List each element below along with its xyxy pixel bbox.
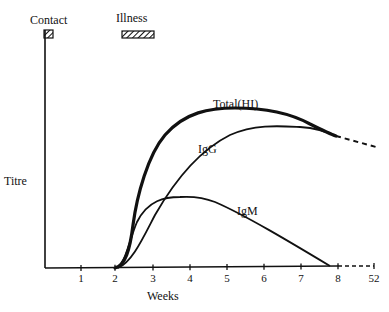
x-tick-label: 1 (78, 273, 84, 284)
x-tick-label: 3 (150, 273, 156, 284)
series-total-hi (115, 108, 336, 268)
igm-label: IgM (237, 205, 258, 217)
x-tick-label: 7 (298, 273, 304, 284)
x-tick-label: 6 (261, 273, 267, 284)
x-axis (45, 266, 338, 268)
series-igg (118, 126, 336, 268)
series-total-hi-extrapolated (336, 136, 376, 147)
x-tick-label: 52 (369, 273, 380, 284)
illness-label: Illness (116, 12, 147, 24)
x-tick-label: 8 (335, 273, 341, 284)
x-tick-label: 5 (224, 273, 230, 284)
series-igm (117, 197, 330, 268)
total-hi-label: Total(HI) (213, 98, 258, 110)
contact-label: Contact (30, 14, 67, 26)
y-axis-label: Titre (4, 175, 27, 187)
x-axis-label: Weeks (147, 290, 179, 302)
illness-marker (122, 31, 154, 38)
x-tick-label: 4 (187, 273, 193, 284)
x-tick-label: 2 (112, 273, 118, 284)
igg-label: IgG (198, 143, 217, 155)
contact-marker (44, 30, 53, 38)
antibody-response-chart: Contact Illness Titre Weeks Total(HI) Ig… (0, 0, 389, 312)
chart-canvas (0, 0, 389, 312)
